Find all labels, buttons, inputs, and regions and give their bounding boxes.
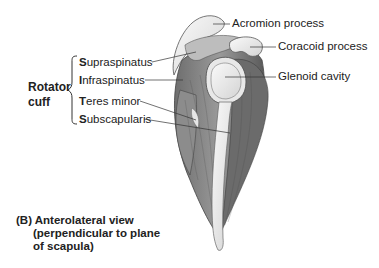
group-title-line1: Rotator	[28, 80, 71, 95]
group-title-line2: cuff	[28, 95, 71, 110]
label-glenoid-cavity: Glenoid cavity	[278, 70, 350, 83]
anatomy-figure: Rotator cuff Supraspinatus Infraspinatus…	[0, 0, 379, 268]
label-initial: T	[79, 95, 86, 107]
caption-line-3: of scapula)	[16, 240, 160, 253]
label-coracoid-process: Coracoid process	[278, 40, 367, 53]
caption-line-2: (perpendicular to plane	[16, 227, 160, 240]
label-acromion-process: Acromion process	[232, 17, 324, 30]
glenoid-cavity	[211, 63, 241, 99]
caption-line-1: Anterolateral view	[35, 214, 134, 226]
label-teres-minor: Teres minor	[79, 95, 140, 108]
figure-caption: (B) Anterolateral view (perpendicular to…	[16, 214, 160, 253]
label-rest: nfraspinatus	[82, 74, 145, 86]
label-rest: upraspinatus	[87, 56, 153, 68]
label-infraspinatus: Infraspinatus	[79, 74, 145, 87]
label-initial: S	[79, 56, 87, 68]
label-subscapularis: Subscapularis	[79, 113, 151, 126]
view-label: (B)	[16, 214, 32, 226]
label-rest: eres minor	[86, 95, 140, 107]
label-initial: S	[79, 113, 87, 125]
rotator-cuff-title: Rotator cuff	[28, 80, 71, 110]
label-supraspinatus: Supraspinatus	[79, 56, 153, 69]
label-rest: ubscapularis	[87, 113, 152, 125]
